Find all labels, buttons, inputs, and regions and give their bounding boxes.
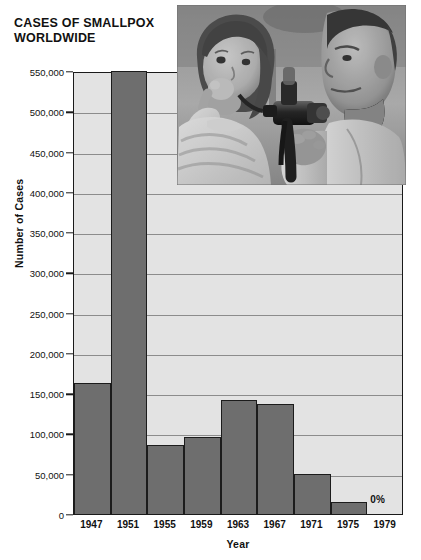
y-tick-label: 550,000 <box>30 67 64 78</box>
y-tick-label: 400,000 <box>30 187 64 198</box>
bar-1947[interactable] <box>74 383 111 514</box>
y-tick-mark <box>66 273 73 274</box>
y-tick-label: 0 <box>59 510 64 521</box>
y-tick-mark <box>66 192 73 193</box>
y-tick-mark <box>66 112 73 113</box>
x-axis: 194719511955195919631967197119751979 <box>73 519 403 539</box>
y-tick-mark <box>66 152 73 153</box>
y-tick-label: 450,000 <box>30 147 64 158</box>
x-tick-label-1955: 1955 <box>154 519 176 530</box>
y-tick-label: 250,000 <box>30 308 64 319</box>
y-tick-label: 350,000 <box>30 228 64 239</box>
vaccination-photo <box>177 5 406 185</box>
y-tick-mark <box>66 434 73 435</box>
x-tick-label-1951: 1951 <box>117 519 139 530</box>
bar-1971[interactable] <box>294 474 331 514</box>
x-tick-label-1967: 1967 <box>264 519 286 530</box>
bar-1955[interactable] <box>147 445 184 514</box>
y-tick-mark <box>66 71 73 72</box>
y-tick-label: 200,000 <box>30 348 64 359</box>
x-tick-label-1947: 1947 <box>80 519 102 530</box>
y-tick-mark <box>66 393 73 394</box>
y-tick-label: 100,000 <box>30 429 64 440</box>
y-tick-mark <box>66 474 73 475</box>
y-tick-mark <box>66 313 73 314</box>
bar-1963[interactable] <box>221 400 258 514</box>
bar-1967[interactable] <box>257 404 294 514</box>
y-tick-mark <box>66 514 73 515</box>
zero-percent-annotation: 0% <box>370 494 384 505</box>
x-axis-title: Year <box>73 538 403 550</box>
y-tick-label: 150,000 <box>30 389 64 400</box>
y-axis: 050,000100,000150,000200,000250,000300,0… <box>0 0 73 560</box>
x-tick-label-1959: 1959 <box>190 519 212 530</box>
x-tick-label-1971: 1971 <box>300 519 322 530</box>
y-tick-mark <box>66 232 73 233</box>
y-tick-label: 500,000 <box>30 107 64 118</box>
bar-1951[interactable] <box>111 71 148 514</box>
vaccination-photo-image <box>177 5 406 185</box>
y-tick-mark <box>66 353 73 354</box>
x-tick-label-1963: 1963 <box>227 519 249 530</box>
bar-1975[interactable] <box>331 502 368 514</box>
y-tick-label: 300,000 <box>30 268 64 279</box>
x-tick-label-1975: 1975 <box>337 519 359 530</box>
x-tick-label-1979: 1979 <box>374 519 396 530</box>
bar-1959[interactable] <box>184 437 221 514</box>
y-tick-label: 50,000 <box>35 469 64 480</box>
